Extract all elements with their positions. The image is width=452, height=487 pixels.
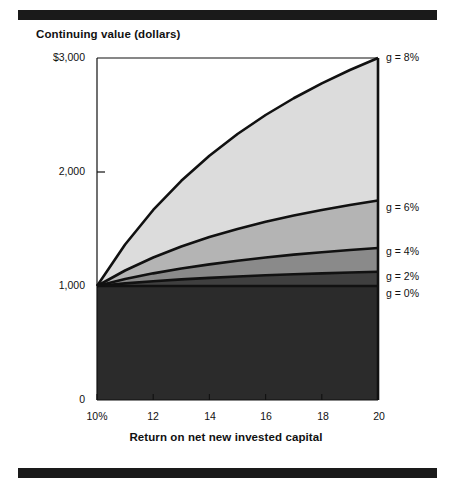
y-tick-label-2000: 2,000 — [25, 165, 85, 177]
y-tick-label-3000: $3,000 — [25, 51, 85, 63]
x-tick-label-16: 16 — [246, 410, 286, 422]
series-label-g6: g = 6% — [386, 201, 419, 213]
x-tick-label-18: 18 — [303, 410, 343, 422]
bottom-rule — [18, 468, 437, 478]
x-tick-label-10: 10% — [77, 410, 117, 422]
series-label-g4: g = 4% — [386, 245, 419, 257]
x-tick-label-14: 14 — [190, 410, 230, 422]
y-tick-label-0: 0 — [25, 393, 85, 405]
area-g-0- — [97, 286, 378, 400]
series-label-g2: g = 2% — [386, 270, 419, 282]
y-tick-label-1000: 1,000 — [25, 279, 85, 291]
x-axis-title: Return on net new invested capital — [0, 431, 452, 443]
series-label-g0: g = 0% — [386, 287, 419, 299]
x-tick-label-20: 20 — [359, 410, 399, 422]
series-label-g8: g = 8% — [386, 51, 419, 63]
x-tick-label-12: 12 — [133, 410, 173, 422]
